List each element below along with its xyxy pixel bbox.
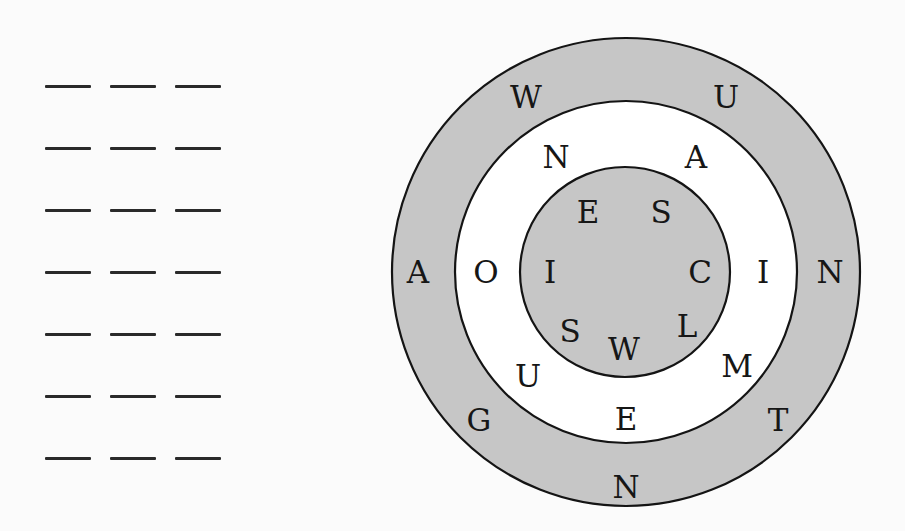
inner-letter: S [641,192,681,232]
inner-letter: C [680,252,720,292]
inner-letter: I [530,252,570,292]
inner-letter: S [550,311,590,351]
outer-letter: T [758,400,798,440]
middle-letter: N [536,137,576,177]
word-circle-puzzle: W U N T N G A N A I M E U O E S C L W S … [0,0,905,531]
outer-letter: A [398,252,438,292]
middle-letter: E [606,399,646,439]
outer-letter: N [606,467,646,507]
outer-letter: N [810,252,850,292]
middle-letter: O [466,252,506,292]
outer-letter: G [459,400,499,440]
concentric-circles: W U N T N G A N A I M E U O E S C L W S … [0,0,905,531]
inner-letter: L [667,306,707,346]
outer-letter: U [706,77,746,117]
inner-letter: E [568,192,608,232]
inner-letter: W [604,329,644,369]
outer-letter: W [506,77,546,117]
middle-letter: U [508,356,548,396]
middle-letter: M [717,346,757,386]
middle-letter: A [676,137,716,177]
middle-letter: I [743,252,783,292]
